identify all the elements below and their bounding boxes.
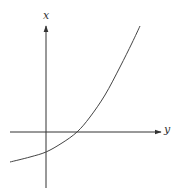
vertical-axis-label: x: [43, 10, 49, 21]
horizontal-axis-label: y: [164, 124, 170, 135]
curve-line: [10, 26, 140, 162]
plot-svg: [0, 0, 177, 195]
chart-area: x y: [0, 0, 177, 195]
